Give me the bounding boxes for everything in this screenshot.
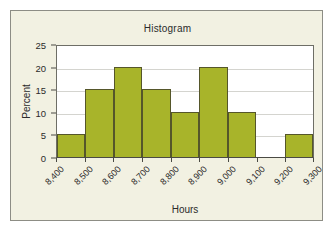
x-tick-label: 9,300: [301, 164, 324, 187]
x-tick-mark: [257, 158, 258, 162]
x-tick-label: 9,100: [244, 164, 267, 187]
bar-slot: [285, 46, 313, 157]
chart-panel: Histogram Percent 0510152025 8,4008,5008…: [10, 10, 323, 221]
x-tick-mark: [142, 158, 143, 162]
y-tick-label: 20: [35, 62, 46, 73]
x-tick-mark: [228, 158, 229, 162]
x-axis-title: Hours: [56, 204, 314, 215]
x-tick-mark: [313, 158, 314, 162]
x-tick-label: 9,000: [215, 164, 238, 187]
x-tick-mark: [285, 158, 286, 162]
x-tick-label: 8,600: [100, 164, 123, 187]
histogram-bar: [57, 134, 85, 157]
x-tick-label: 8,700: [129, 164, 152, 187]
x-tick-mark: [113, 158, 114, 162]
x-tick-label: 8,400: [43, 164, 66, 187]
y-tick-label: 10: [35, 107, 46, 118]
histogram-bar: [285, 134, 313, 157]
x-tick-mark: [85, 158, 86, 162]
y-tick-label: 5: [41, 130, 46, 141]
y-tick-label: 15: [35, 85, 46, 96]
histogram-bar: [114, 67, 142, 157]
bar-slot: [171, 46, 199, 157]
x-tick-label: 9,200: [272, 164, 295, 187]
y-axis: 0510152025: [11, 45, 56, 158]
y-tick-label: 0: [41, 153, 46, 164]
chart-title: Histogram: [11, 23, 324, 34]
bar-slot: [57, 46, 85, 157]
bar-slot: [142, 46, 170, 157]
histogram-bar: [171, 112, 199, 157]
histogram-bar: [228, 112, 256, 157]
bar-series: [57, 46, 313, 157]
x-tick-mark: [199, 158, 200, 162]
x-tick-label: 8,900: [186, 164, 209, 187]
bar-slot: [85, 46, 113, 157]
histogram-bar: [142, 89, 170, 157]
x-tick-label: 8,500: [72, 164, 95, 187]
histogram-bar: [85, 89, 113, 157]
plot-area: [56, 45, 314, 158]
bar-slot: [228, 46, 256, 157]
bar-slot: [199, 46, 227, 157]
x-axis: 8,4008,5008,6008,7008,8008,9009,0009,100…: [56, 158, 314, 206]
histogram-bar: [199, 67, 227, 157]
x-tick-mark: [171, 158, 172, 162]
bar-slot: [114, 46, 142, 157]
x-tick-label: 8,800: [158, 164, 181, 187]
histogram-figure: Histogram Percent 0510152025 8,4008,5008…: [0, 0, 334, 232]
bar-slot: [256, 46, 284, 157]
y-tick-label: 25: [35, 40, 46, 51]
x-tick-mark: [56, 158, 57, 162]
